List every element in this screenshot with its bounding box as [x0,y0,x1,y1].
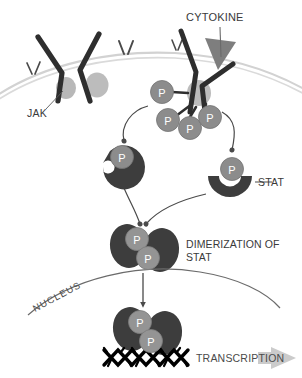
phosphate-receptor-right: P [199,106,222,129]
arrow-to-stat-left [123,106,148,141]
dimerization-label-line1: DIMERIZATION OF [186,238,279,250]
arrow-right-stat-to-dimer [146,194,206,224]
svg-text:P: P [118,152,125,164]
phosphate-stat-left: P [111,146,134,169]
jak-stat-pathway-diagram: NUCLEUS [0,0,302,378]
arrow-left-stat-to-dimer [124,188,140,224]
stat-label: STAT [258,176,284,188]
pathway-illustration: NUCLEUS [0,0,302,378]
cytokine-label: CYTOKINE [186,11,244,23]
svg-text:P: P [186,123,193,135]
svg-text:P: P [164,115,171,127]
phosphate-stat-right: P [221,158,244,181]
svg-text:P: P [206,112,213,124]
phosphate-receptor-lower: P [157,109,180,132]
arrow-to-stat-right [222,112,234,150]
phosphate-receptor-left: P [151,81,174,104]
svg-text:P: P [158,87,165,99]
svg-text:P: P [133,234,140,246]
svg-text:P: P [136,317,143,329]
svg-text:P: P [144,253,151,265]
phosphate-dimer-lower: P [137,247,160,270]
transcription-label: TRANSCRIPTION [196,352,284,364]
svg-text:P: P [228,164,235,176]
svg-text:P: P [147,336,154,348]
phosphate-receptor-mid: P [179,117,202,140]
dimerization-label-line2: STAT [186,251,212,263]
jak-label: JAK [27,107,47,119]
cytokine-receptor-complex [181,27,236,112]
phosphate-nuclear-lower: P [140,330,163,353]
nucleus-label: NUCLEUS [31,279,83,314]
